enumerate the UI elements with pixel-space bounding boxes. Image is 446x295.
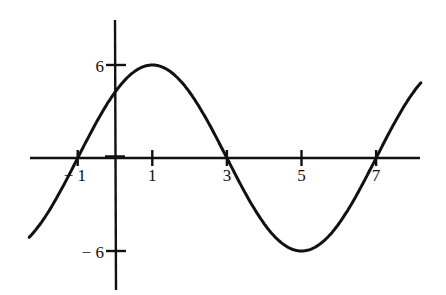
y-tick-label: 6 (96, 57, 105, 76)
y-axis (115, 20, 116, 290)
x-tick-label: 5 (297, 166, 306, 185)
x-tick-label: 3 (223, 166, 232, 185)
x-tick-label: 7 (372, 166, 381, 185)
y-tick-label: − 6 (82, 243, 104, 262)
x-tick-label: 1 (148, 166, 157, 185)
sine-graph: − 11357 6− 6 (0, 0, 446, 295)
